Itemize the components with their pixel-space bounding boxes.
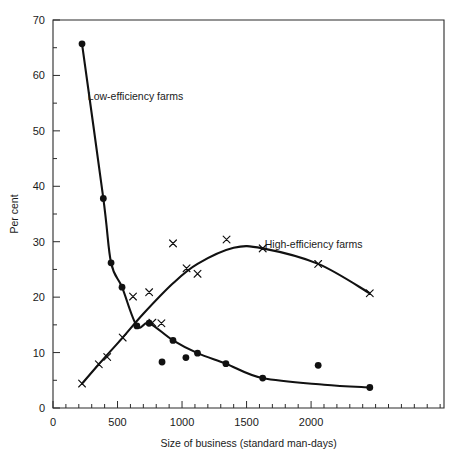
x-tick-label: 2000 <box>299 416 323 428</box>
data-point-high-efficiency <box>194 270 201 277</box>
y-tick-label: 0 <box>39 402 45 414</box>
scatter-chart: 0500100015002000010203040506070Size of b… <box>0 0 461 459</box>
data-point-high-efficiency <box>146 289 153 296</box>
y-tick-label: 30 <box>33 236 45 248</box>
y-tick-label: 70 <box>33 14 45 26</box>
y-tick-label: 50 <box>33 125 45 137</box>
y-tick-label: 60 <box>33 69 45 81</box>
annotation-low-efficiency-farms: Low-efficiency farms <box>88 90 184 102</box>
data-point-high-efficiency <box>158 320 165 327</box>
y-tick-label: 20 <box>33 291 45 303</box>
x-tick-label: 500 <box>108 416 126 428</box>
data-point-low-efficiency <box>100 195 107 202</box>
data-point-high-efficiency <box>170 240 177 247</box>
x-tick-label: 1500 <box>234 416 258 428</box>
data-point-low-efficiency <box>194 350 201 357</box>
data-point-low-efficiency <box>259 375 266 382</box>
y-tick-label: 10 <box>33 347 45 359</box>
data-point-low-efficiency <box>79 40 86 47</box>
data-point-low-efficiency <box>366 384 373 391</box>
data-point-high-efficiency <box>366 290 373 297</box>
y-axis-title: Per cent <box>8 194 20 233</box>
x-axis-title: Size of business (standard man-days) <box>160 437 336 449</box>
x-tick-label: 1000 <box>170 416 194 428</box>
data-point-high-efficiency <box>223 236 230 243</box>
data-point-high-efficiency <box>79 380 86 387</box>
x-tick-label: 0 <box>50 416 56 428</box>
data-point-high-efficiency <box>119 334 126 341</box>
data-point-low-efficiency <box>170 337 177 344</box>
data-point-low-efficiency <box>133 323 140 330</box>
data-point-low-efficiency <box>108 259 115 266</box>
data-point-low-efficiency <box>223 360 230 367</box>
annotation-high-efficiency-farms: High-efficiency farms <box>265 238 363 250</box>
data-point-low-efficiency <box>119 284 126 291</box>
data-point-low-efficiency <box>183 354 190 361</box>
data-point-low-efficiency <box>315 362 322 369</box>
data-point-low-efficiency <box>159 359 166 366</box>
chart-figure: 0500100015002000010203040506070Size of b… <box>0 0 461 459</box>
data-point-high-efficiency <box>95 361 102 368</box>
y-tick-label: 40 <box>33 180 45 192</box>
data-point-high-efficiency <box>130 293 137 300</box>
